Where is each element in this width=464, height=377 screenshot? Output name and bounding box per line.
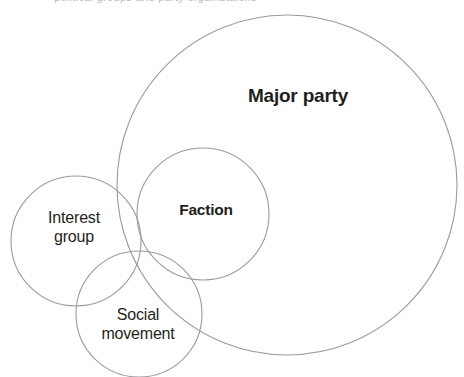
- venn-diagram: political groups and party organizations…: [0, 0, 464, 377]
- venn-circles-canvas: [0, 0, 464, 377]
- circle-major-party: [117, 15, 457, 355]
- circle-interest-group: [11, 176, 141, 306]
- circle-faction: [137, 148, 269, 280]
- circle-social-movement: [76, 251, 202, 377]
